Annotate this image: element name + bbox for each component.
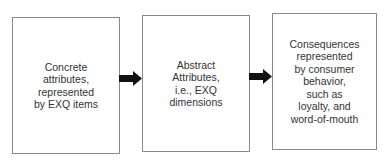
abstract-attributes-box: Abstract Attributes, i.e., EXQ dimension… <box>142 15 250 152</box>
consequences-label: Consequences represented by consumer beh… <box>289 38 359 126</box>
arrow-right-icon <box>249 68 273 85</box>
arrow-right-icon <box>119 70 143 87</box>
consequences-box: Consequences represented by consumer beh… <box>272 13 377 150</box>
abstract-attributes-label: Abstract Attributes, i.e., EXQ dimension… <box>169 59 222 109</box>
concrete-attributes-label: Concrete attributes, represented by EXQ … <box>34 61 98 111</box>
concrete-attributes-box: Concrete attributes, represented by EXQ … <box>12 17 120 154</box>
